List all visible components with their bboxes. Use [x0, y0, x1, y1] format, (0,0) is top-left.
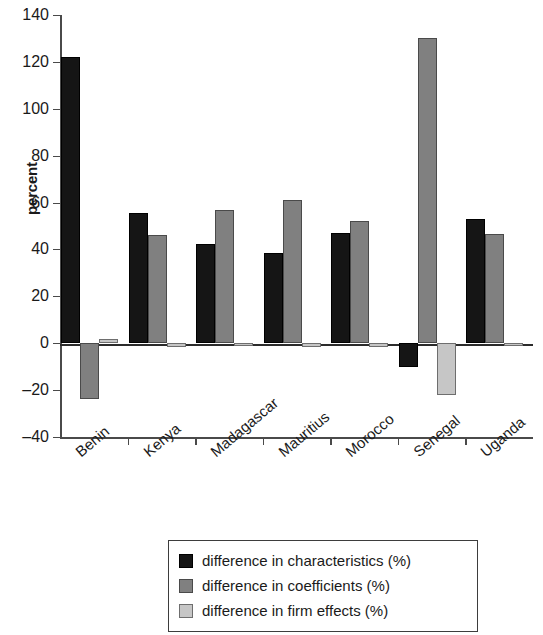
x-tick-mark	[330, 437, 332, 445]
x-tick-mark	[465, 437, 467, 445]
legend-item: difference in characteristics (%)	[179, 548, 467, 573]
y-tick-mark	[53, 437, 60, 438]
bar-chart: percent 140120100806040200–20–40BeninKen…	[0, 0, 543, 635]
y-tick-label: 0	[3, 335, 49, 351]
y-tick-mark	[53, 109, 60, 110]
y-tick-label: 60	[3, 195, 49, 211]
bar-uganda-series-0	[466, 219, 485, 343]
bar-madagascar-series-1	[215, 210, 234, 344]
x-axis-label-benin: Benin	[72, 422, 112, 460]
chart-legend: difference in characteristics (%) differ…	[168, 540, 478, 632]
y-tick-mark	[53, 156, 60, 157]
bar-kenya-series-0	[129, 213, 148, 343]
bar-senegal-series-2	[437, 343, 456, 395]
legend-label-coefficients: difference in coefficients (%)	[202, 578, 390, 593]
bar-mauritius-series-2	[302, 343, 321, 347]
y-tick-mark	[53, 203, 60, 204]
x-axis-label-senegal: Senegal	[410, 412, 463, 460]
bar-uganda-series-2	[504, 343, 523, 345]
zero-line	[60, 344, 533, 346]
bar-uganda-series-1	[485, 234, 504, 343]
y-tick-label: 100	[3, 101, 49, 117]
legend-swatch-coefficients-icon	[179, 579, 193, 593]
bar-morocco-series-0	[331, 233, 350, 343]
y-tick-mark	[53, 249, 60, 250]
y-tick-mark	[53, 390, 60, 391]
x-tick-mark	[195, 437, 197, 445]
bar-madagascar-series-0	[196, 244, 215, 344]
legend-label-firm-effects: difference in firm effects (%)	[202, 603, 388, 618]
y-tick-mark	[53, 62, 60, 63]
bar-mauritius-series-1	[283, 200, 302, 343]
bar-morocco-series-1	[350, 221, 369, 343]
x-axis-label-madagascar: Madagascar	[207, 394, 281, 460]
x-axis-label-kenya: Kenya	[140, 420, 184, 460]
x-tick-mark	[398, 437, 400, 445]
y-tick-label: 20	[3, 288, 49, 304]
bar-mauritius-series-0	[264, 253, 283, 343]
legend-swatch-characteristics-icon	[179, 554, 193, 568]
bar-morocco-series-2	[369, 343, 388, 347]
y-tick-label: 140	[3, 7, 49, 23]
y-tick-label: 40	[3, 241, 49, 257]
y-tick-label: –20	[3, 382, 49, 398]
y-tick-label: 80	[3, 148, 49, 164]
bar-kenya-series-2	[167, 343, 186, 347]
y-tick-mark	[53, 343, 60, 344]
legend-swatch-firm-effects-icon	[179, 604, 193, 618]
legend-item: difference in coefficients (%)	[179, 573, 467, 598]
legend-label-characteristics: difference in characteristics (%)	[202, 553, 411, 568]
plot-area: 140120100806040200–20–40BeninKenyaMadaga…	[0, 0, 543, 460]
bar-benin-series-0	[61, 57, 80, 343]
bar-benin-series-2	[99, 339, 118, 344]
x-axis-label-morocco: Morocco	[342, 410, 397, 460]
x-tick-mark	[263, 437, 265, 445]
bar-kenya-series-1	[148, 235, 167, 343]
x-tick-mark	[128, 437, 130, 445]
x-axis-label-mauritius: Mauritius	[275, 408, 333, 460]
bar-madagascar-series-2	[234, 343, 253, 345]
y-tick-mark	[53, 296, 60, 297]
bar-senegal-series-0	[399, 343, 418, 366]
legend-item: difference in firm effects (%)	[179, 598, 467, 623]
y-tick-label: 120	[3, 54, 49, 70]
y-tick-mark	[53, 15, 60, 16]
y-tick-label: –40	[3, 429, 49, 445]
bar-senegal-series-1	[418, 38, 437, 343]
bar-benin-series-1	[80, 343, 99, 399]
